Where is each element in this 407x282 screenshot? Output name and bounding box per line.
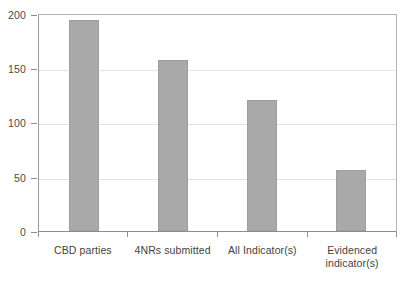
x-label-line: CBD parties <box>38 244 128 257</box>
bar-evidenced-indicators[interactable] <box>336 170 366 231</box>
y-tick-mark-100 <box>31 123 37 124</box>
y-tick-mark-200 <box>31 15 37 16</box>
x-tick-mark-4 <box>396 232 397 237</box>
x-tick-mark-2 <box>217 232 218 237</box>
bar-slot-4nrs-submitted <box>128 15 217 231</box>
y-tick-mark-50 <box>31 178 37 179</box>
y-tick-label-50: 50 <box>14 173 26 184</box>
bars-layer <box>39 15 396 231</box>
x-label-line: Evidenced <box>307 244 397 257</box>
x-label-all-indicators: All Indicator(s) <box>218 244 308 257</box>
y-tick-label-0: 0 <box>20 227 26 238</box>
y-tick-mark-150 <box>31 69 37 70</box>
x-label-cbd-parties: CBD parties <box>38 244 128 257</box>
y-tick-label-150: 150 <box>8 64 26 75</box>
x-tick-mark-3 <box>307 232 308 237</box>
x-tick-mark-0 <box>38 232 39 237</box>
y-tick-label-200: 200 <box>8 10 26 21</box>
bar-all-indicators[interactable] <box>247 100 277 231</box>
x-label-line: indicator(s) <box>307 257 397 270</box>
x-label-4nrs-submitted: 4NRs submitted <box>128 244 218 257</box>
bar-4nrs-submitted[interactable] <box>158 60 188 231</box>
x-axis-ticks <box>38 232 397 238</box>
x-label-line: 4NRs submitted <box>128 244 218 257</box>
bar-slot-evidenced-indicators <box>307 15 396 231</box>
x-tick-mark-1 <box>127 232 128 237</box>
bar-slot-all-indicators <box>218 15 307 231</box>
x-axis-labels: CBD parties 4NRs submitted All Indicator… <box>38 244 397 282</box>
x-label-evidenced-indicators: Evidenced indicator(s) <box>307 244 397 270</box>
bar-chart: 200 150 100 50 0 <box>0 0 407 282</box>
plot-area <box>38 14 397 232</box>
y-tick-mark-0 <box>31 232 37 233</box>
x-label-line: All Indicator(s) <box>218 244 308 257</box>
bar-slot-cbd-parties <box>39 15 128 231</box>
y-tick-label-100: 100 <box>8 118 26 129</box>
y-axis: 200 150 100 50 0 <box>0 0 34 282</box>
bar-cbd-parties[interactable] <box>69 20 99 232</box>
